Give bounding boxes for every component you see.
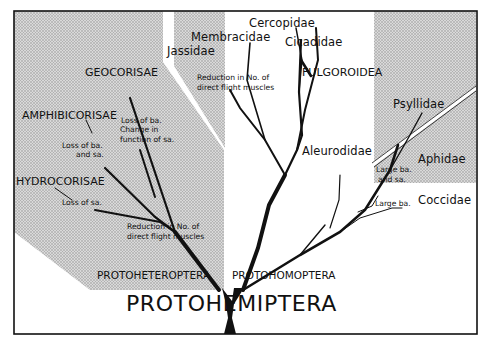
note-hydrocorisae: Loss of sa. [62, 199, 102, 208]
note-aphidae-1: Large ba. [376, 166, 412, 175]
label-amphibicorisae: AMPHIBICORISAE [22, 110, 117, 121]
label-aleurodidae: Aleurodidae [302, 146, 372, 158]
note-geocorisae-2: Change in [120, 126, 158, 135]
note-heteroptera-node-2: direct flight muscles [127, 233, 204, 242]
note-aphidae-2: and sa. [378, 176, 406, 185]
note-homoptera-node-2: direct flight muscles [197, 84, 274, 93]
label-cercopidae: Cercopidae [249, 18, 315, 30]
label-protohomoptera: PROTOHOMOPTERA [232, 270, 336, 281]
label-membracidae: Membracidae [191, 32, 270, 44]
label-cicadidae: Cicadidae [285, 37, 342, 49]
label-protohemiptera: PROTOHEMIPTERA [126, 293, 337, 315]
label-hydrocorisae: HYDROCORISAE [16, 176, 105, 187]
note-geocorisae-3: function of sa. [120, 136, 174, 145]
label-protoheteroptera: PROTOHETEROPTERA [97, 270, 210, 281]
label-aphidae: Aphidae [418, 154, 466, 166]
label-geocorisae: GEOCORISAE [85, 67, 158, 78]
note-heteroptera-node-1: Reduction in No. of [127, 223, 199, 232]
label-jassidae: Jassidae [167, 46, 215, 58]
label-coccidae: Coccidae [418, 195, 471, 207]
label-fulgoroidea: FULGOROIDEA [302, 67, 382, 78]
note-coccidae: Large ba. [375, 200, 411, 209]
note-amphibicorisae-2: and sa. [76, 151, 104, 160]
label-psyllidae: Psyllidae [393, 99, 444, 111]
note-homoptera-node-1: Reduction in No. of [197, 74, 269, 83]
